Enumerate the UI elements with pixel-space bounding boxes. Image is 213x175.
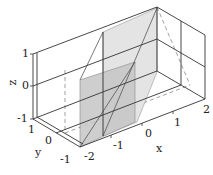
z-tick-1: 1 bbox=[22, 48, 29, 59]
x-tick-0: 0 bbox=[145, 128, 152, 139]
z-tick-0: 0 bbox=[22, 80, 29, 91]
x-tick-neg2: -2 bbox=[84, 151, 95, 162]
z-tick-neg1: -1 bbox=[17, 113, 28, 124]
x-tick-1: 1 bbox=[174, 117, 181, 128]
y-axis-label: y bbox=[35, 147, 41, 158]
y-tick-neg1: -1 bbox=[60, 154, 71, 165]
3d-plot: z 1 0 -1 1 0 -1 y -2 -1 0 1 2 x bbox=[0, 0, 213, 175]
z-axis-label: z bbox=[7, 80, 18, 86]
plot-canvas bbox=[0, 0, 213, 175]
y-tick-0: 0 bbox=[45, 135, 52, 146]
x-tick-2: 2 bbox=[203, 104, 210, 115]
y-tick-1: 1 bbox=[28, 124, 35, 135]
x-tick-neg1: -1 bbox=[113, 140, 124, 151]
x-axis-label: x bbox=[156, 143, 162, 154]
